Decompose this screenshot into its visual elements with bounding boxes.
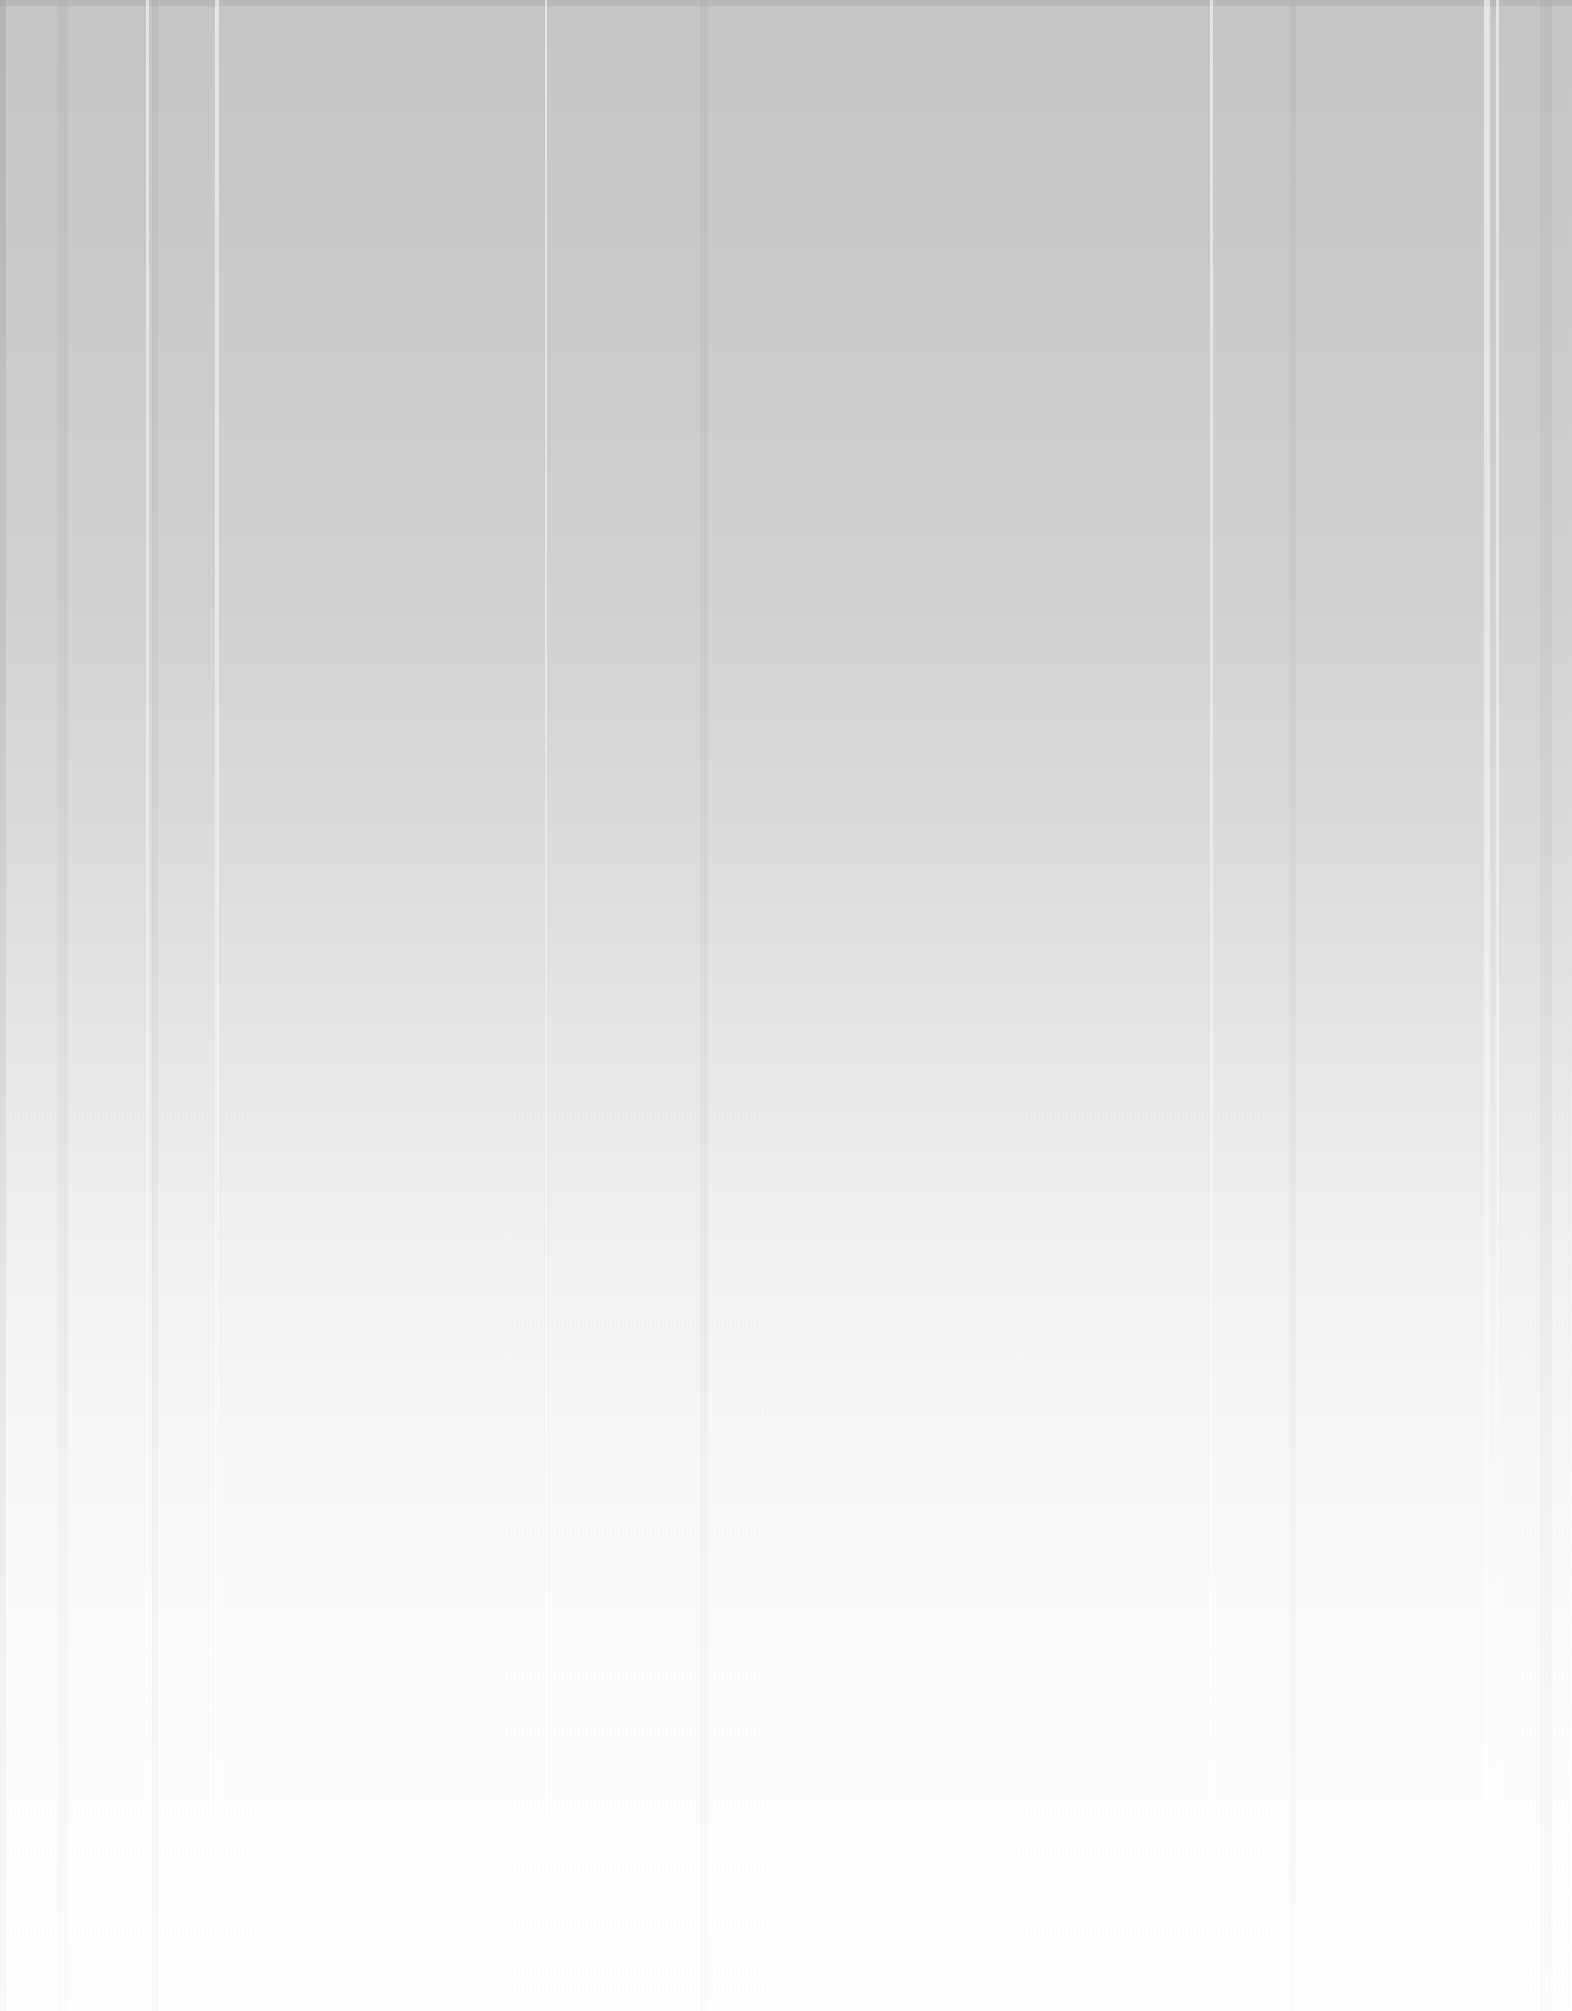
scanner-streak bbox=[1496, 0, 1499, 2011]
scanner-streak bbox=[1540, 0, 1552, 2011]
scanner-streak bbox=[152, 0, 158, 2011]
scanner-streak bbox=[700, 0, 708, 2011]
paper-texture bbox=[0, 0, 1572, 2011]
blank-scanned-page bbox=[0, 0, 1572, 2011]
scanner-streak bbox=[1290, 0, 1296, 2011]
scanner-streak bbox=[545, 0, 547, 2011]
scan-left-edge bbox=[0, 0, 6, 2011]
scanner-streak bbox=[58, 0, 68, 2011]
scan-top-edge bbox=[0, 0, 1572, 6]
scanner-streak bbox=[1210, 0, 1213, 2011]
scanner-streak bbox=[146, 0, 149, 2011]
scanner-streak bbox=[1484, 0, 1490, 2011]
scanner-streak bbox=[215, 0, 219, 2011]
